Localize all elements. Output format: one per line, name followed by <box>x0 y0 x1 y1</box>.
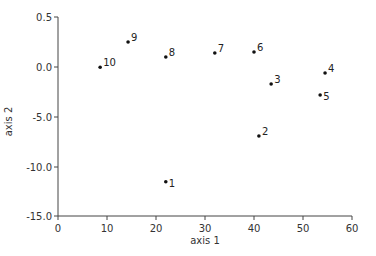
data-point: 10 <box>98 57 116 69</box>
y-tick-label: 0.5 <box>36 12 52 23</box>
y-axis-title: axis 2 <box>3 107 14 137</box>
x-tick-label: 30 <box>199 223 212 234</box>
data-point: 9 <box>126 32 137 44</box>
x-tick-label: 10 <box>101 223 114 234</box>
point-marker <box>126 40 130 44</box>
data-point: 3 <box>269 74 280 86</box>
data-point: 4 <box>323 63 334 75</box>
point-label: 8 <box>169 47 175 58</box>
x-tick-label: 0 <box>55 223 61 234</box>
y-tick-label: 0.0 <box>36 62 52 73</box>
point-label: 7 <box>218 43 224 54</box>
data-point: 5 <box>318 91 329 102</box>
axes: 01020304050600.50.0-5.0-10.0-15.0axis 1a… <box>3 12 358 247</box>
data-point: 7 <box>213 43 224 55</box>
point-label: 5 <box>323 91 329 102</box>
point-label: 2 <box>262 126 268 137</box>
point-label: 3 <box>274 74 280 85</box>
y-tick-label: -10.0 <box>26 162 52 173</box>
x-tick-label: 60 <box>346 223 359 234</box>
data-point: 2 <box>257 126 268 138</box>
point-marker <box>164 180 168 184</box>
data-points: 12345678910 <box>98 32 334 189</box>
data-point: 6 <box>252 42 263 54</box>
data-point: 8 <box>164 47 175 59</box>
point-marker <box>269 82 273 86</box>
scatter-chart: 01020304050600.50.0-5.0-10.0-15.0axis 1a… <box>0 0 376 256</box>
point-label: 4 <box>328 63 334 74</box>
point-marker <box>98 65 102 69</box>
y-tick-label: -5.0 <box>32 112 52 123</box>
point-marker <box>213 51 217 55</box>
point-label: 1 <box>169 178 175 189</box>
x-axis-title: axis 1 <box>190 235 220 246</box>
point-label: 6 <box>257 42 263 53</box>
point-marker <box>323 71 327 75</box>
point-marker <box>257 134 261 138</box>
x-tick-label: 40 <box>248 223 261 234</box>
point-label: 10 <box>103 57 116 68</box>
point-marker <box>318 93 322 97</box>
point-marker <box>164 55 168 59</box>
y-tick-label: -15.0 <box>26 211 52 222</box>
data-point: 1 <box>164 178 175 189</box>
x-tick-label: 20 <box>150 223 163 234</box>
x-tick-label: 50 <box>297 223 310 234</box>
point-marker <box>252 50 256 54</box>
point-label: 9 <box>131 32 137 43</box>
